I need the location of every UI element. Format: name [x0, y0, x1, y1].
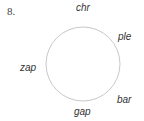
label-lower-right: bar [117, 95, 131, 105]
label-top: chr [76, 3, 90, 13]
label-left: zap [20, 63, 36, 73]
label-bottom: gap [74, 107, 91, 117]
circle [46, 27, 120, 101]
label-upper-right: ple [118, 32, 131, 42]
